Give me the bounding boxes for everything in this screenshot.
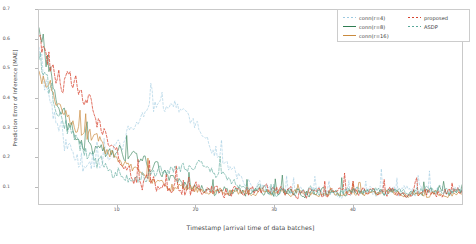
- y-tick-label: 0.6: [0, 36, 10, 41]
- legend-label: conn(r=16): [359, 33, 389, 39]
- legend-item[interactable]: proposed: [408, 13, 448, 22]
- y-tick-label: 0.5: [0, 65, 10, 70]
- legend-color-swatch: [343, 15, 356, 20]
- y-tick-mark: [35, 98, 38, 99]
- y-tick-label: 0.7: [0, 6, 10, 11]
- legend-column-right: proposedASDP: [408, 13, 448, 31]
- y-tick-mark: [35, 128, 38, 129]
- legend-color-swatch: [408, 24, 421, 29]
- legend-color-swatch: [343, 24, 356, 29]
- y-tick-label: 0.4: [0, 95, 10, 100]
- y-tick-mark: [35, 68, 38, 69]
- legend-color-swatch: [343, 33, 356, 38]
- y-tick-mark: [35, 9, 38, 10]
- x-tick-mark: [117, 205, 118, 208]
- series-line: [39, 35, 462, 199]
- legend-label: proposed: [424, 15, 448, 21]
- legend-column-left: conn(r=4)conn(r=8)conn(r=16): [343, 13, 389, 40]
- y-tick-mark: [35, 39, 38, 40]
- y-tick-label: 0.1: [0, 184, 10, 189]
- x-axis-label: Timestamp [arrival time of data batches]: [38, 224, 463, 231]
- y-axis-label: Prediction Error of Inference [MAE]: [12, 0, 24, 196]
- series-line: [39, 28, 462, 198]
- y-tick-mark: [35, 187, 38, 188]
- legend-label: conn(r=4): [359, 15, 385, 21]
- x-tick-mark: [353, 205, 354, 208]
- y-tick-label: 0.3: [0, 125, 10, 130]
- series-line: [39, 47, 462, 198]
- chart-legend: conn(r=4)conn(r=8)conn(r=16) proposedASD…: [337, 9, 470, 42]
- y-tick-label: 0.2: [0, 154, 10, 159]
- x-tick-mark: [274, 205, 275, 208]
- legend-item[interactable]: conn(r=8): [343, 22, 389, 31]
- legend-label: conn(r=8): [359, 24, 385, 30]
- legend-item[interactable]: ASDP: [408, 22, 448, 31]
- x-tick-mark: [195, 205, 196, 208]
- legend-label: ASDP: [424, 24, 438, 30]
- chart-figure: Prediction Error of Inference [MAE] 0.10…: [0, 0, 476, 244]
- legend-item[interactable]: conn(r=4): [343, 13, 389, 22]
- legend-item[interactable]: conn(r=16): [343, 31, 389, 40]
- legend-color-swatch: [408, 15, 421, 20]
- series-line: [39, 52, 462, 196]
- y-tick-mark: [35, 157, 38, 158]
